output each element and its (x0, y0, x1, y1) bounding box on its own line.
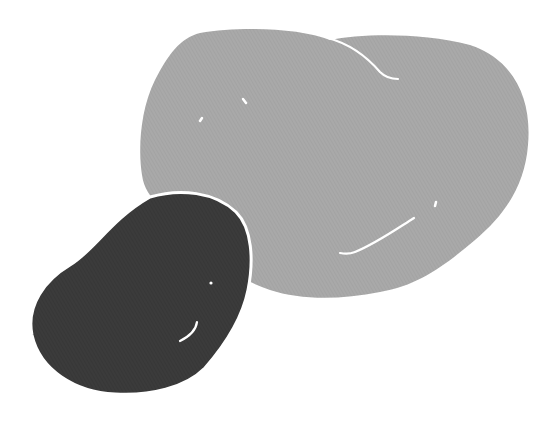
small-potato-icon (31, 192, 251, 394)
potatoes-illustration (0, 0, 559, 432)
illustration-canvas (0, 0, 559, 432)
